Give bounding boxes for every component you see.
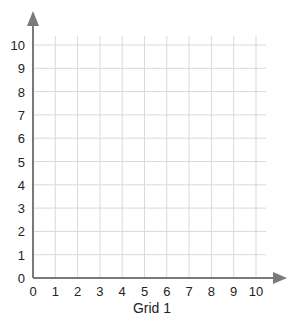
y-tick-label: 10 [11, 38, 25, 53]
gridlines [33, 36, 266, 278]
x-tick-label: 10 [249, 284, 263, 299]
x-tick-label: 7 [185, 284, 192, 299]
y-tick-label: 3 [18, 201, 25, 216]
x-tick-label: 6 [163, 284, 170, 299]
x-tick-label: 9 [230, 284, 237, 299]
coordinate-grid: 012345678910 012345678910 Grid 1 [0, 0, 301, 332]
y-tick-label: 2 [18, 224, 25, 239]
x-tick-label: 0 [29, 284, 36, 299]
y-axis-arrow-icon [27, 11, 39, 26]
x-tick-labels: 012345678910 [29, 284, 263, 299]
x-tick-label: 4 [119, 284, 126, 299]
y-tick-label: 0 [18, 271, 25, 286]
y-tick-label: 9 [18, 61, 25, 76]
y-tick-label: 4 [18, 178, 25, 193]
axes [27, 11, 287, 284]
y-tick-label: 6 [18, 131, 25, 146]
y-tick-label: 7 [18, 108, 25, 123]
y-tick-label: 8 [18, 85, 25, 100]
y-tick-label: 1 [18, 248, 25, 263]
grid-caption: Grid 1 [133, 300, 171, 316]
x-tick-label: 1 [52, 284, 59, 299]
x-tick-label: 2 [74, 284, 81, 299]
x-tick-label: 8 [208, 284, 215, 299]
x-tick-label: 3 [96, 284, 103, 299]
x-tick-label: 5 [141, 284, 148, 299]
y-tick-labels: 012345678910 [11, 38, 25, 286]
x-axis-arrow-icon [273, 272, 287, 284]
y-tick-label: 5 [18, 155, 25, 170]
